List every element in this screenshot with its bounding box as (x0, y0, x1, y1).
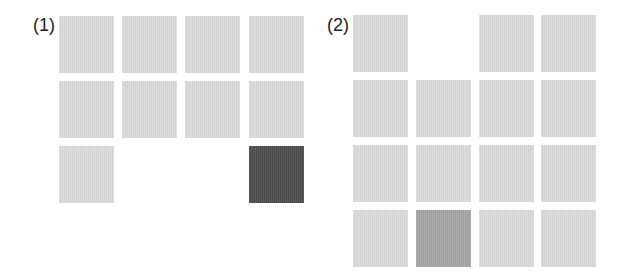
panel-2-label: (2) (327, 16, 349, 34)
panel-1-square (249, 16, 304, 73)
panel-2-square (416, 145, 471, 202)
panel-2-square (479, 80, 534, 137)
panel-2-square (541, 15, 596, 72)
panel-2-square (353, 210, 408, 267)
panel-2-square (479, 145, 534, 202)
panel-2-square (541, 80, 596, 137)
panel-2-square (541, 145, 596, 202)
panel-1-square (122, 81, 177, 138)
panel-1-square (249, 81, 304, 138)
panel-2-square (541, 210, 596, 267)
panel-2-square (416, 210, 471, 267)
panel-2-square (479, 210, 534, 267)
panel-1-square (249, 146, 304, 203)
panel-2-square (479, 15, 534, 72)
panel-1-square (59, 81, 114, 138)
panel-2-square (416, 80, 471, 137)
panel-1-label: (1) (33, 16, 55, 34)
panel-2-square (353, 145, 408, 202)
panel-1-square (185, 81, 240, 138)
panel-1-square (122, 16, 177, 73)
panel-1-square (59, 16, 114, 73)
panel-1-square (59, 146, 114, 203)
panel-2-square (353, 80, 408, 137)
panel-1-square (185, 16, 240, 73)
panel-2-square (353, 15, 408, 72)
